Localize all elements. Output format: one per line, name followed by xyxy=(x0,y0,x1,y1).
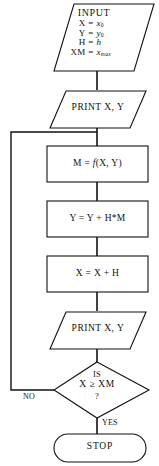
edge-loop-back-no xyxy=(11,132,97,390)
decision-line-3: ? xyxy=(57,391,137,401)
decision-line-1: IS xyxy=(57,369,137,379)
input-assignment-row: Y=y0 xyxy=(54,29,134,39)
update-y-label: Y = Y + H*M xyxy=(47,213,148,223)
input-header: INPUT xyxy=(54,8,134,19)
input-assign-3-op: = xyxy=(86,48,97,58)
print-loop-label: PRINT X, Y xyxy=(48,323,148,333)
decision-line-2: X ≥ XM xyxy=(57,379,137,391)
compute-m-op: = xyxy=(82,158,93,168)
compute-m-lhs: M xyxy=(73,158,82,168)
input-assignment-row: H=h xyxy=(54,38,134,48)
input-assign-3-rhs: xmax xyxy=(97,48,123,58)
input-assignment-row: XM=xmax xyxy=(54,48,134,58)
print-initial-label: PRINT X, Y xyxy=(48,102,148,112)
edge-label-no: NO xyxy=(23,392,35,401)
edge-label-yes: YES xyxy=(102,418,118,427)
input-node-text: INPUT X=x0 Y=y0 H=h XM=xmax xyxy=(54,8,134,58)
input-assign-0-sub: 0 xyxy=(101,22,104,28)
compute-m-args: (X, Y) xyxy=(96,158,122,168)
input-assignment-row: X=x0 xyxy=(54,19,134,29)
input-assign-2-var: h xyxy=(97,37,102,47)
stop-label: STOP xyxy=(54,441,146,451)
update-x-label: X = X + H xyxy=(47,268,148,278)
input-assign-3-sub: max xyxy=(101,51,111,57)
compute-m-label: M=f(X, Y) xyxy=(47,158,148,168)
input-assign-3-lhs: XM xyxy=(66,48,86,58)
decision-label: IS X ≥ XM ? xyxy=(57,369,137,401)
